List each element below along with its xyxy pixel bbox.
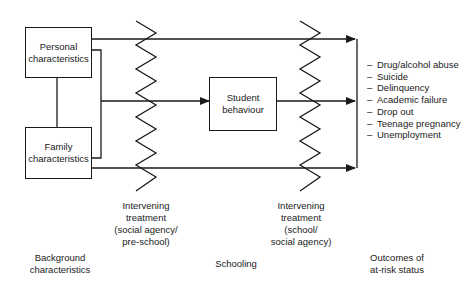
stage-background-label: Background characteristics xyxy=(20,252,100,276)
outcome-item: –Academic failure xyxy=(367,94,460,106)
student-behaviour-box: Student behaviour xyxy=(209,77,277,131)
family-label: Family characteristics xyxy=(26,141,91,165)
intervention-zigzag-2 xyxy=(300,21,320,191)
stage-schooling-label: Schooling xyxy=(196,258,276,270)
family-characteristics-box: Family characteristics xyxy=(25,127,92,179)
intervention-label-1: Intervening treatment (social agency/ pr… xyxy=(106,200,186,248)
outcome-item: –Teenage pregnancy xyxy=(367,118,460,130)
merge-bracket xyxy=(92,50,101,158)
personal-characteristics-box: Personal characteristics xyxy=(25,27,92,78)
stage-outcomes-label: Outcomes of at-risk status xyxy=(357,252,437,276)
student-label: Student behaviour xyxy=(218,92,268,116)
at-risk-diagram: Personal characteristics Family characte… xyxy=(0,0,476,288)
outcome-item: –Unemployment xyxy=(367,129,460,141)
outcome-item: –Drop out xyxy=(367,106,460,118)
intervention-zigzag-1 xyxy=(136,21,156,191)
outcome-item: –Delinquency xyxy=(367,82,460,94)
outcome-list: –Drug/alcohol abuse –Suicide –Delinquenc… xyxy=(367,59,460,141)
intervention-label-2: Intervening treatment (school/ social ag… xyxy=(261,200,341,248)
outcome-item: –Drug/alcohol abuse xyxy=(367,59,460,71)
personal-label: Personal characteristics xyxy=(26,41,91,65)
outcome-item: –Suicide xyxy=(367,71,460,83)
